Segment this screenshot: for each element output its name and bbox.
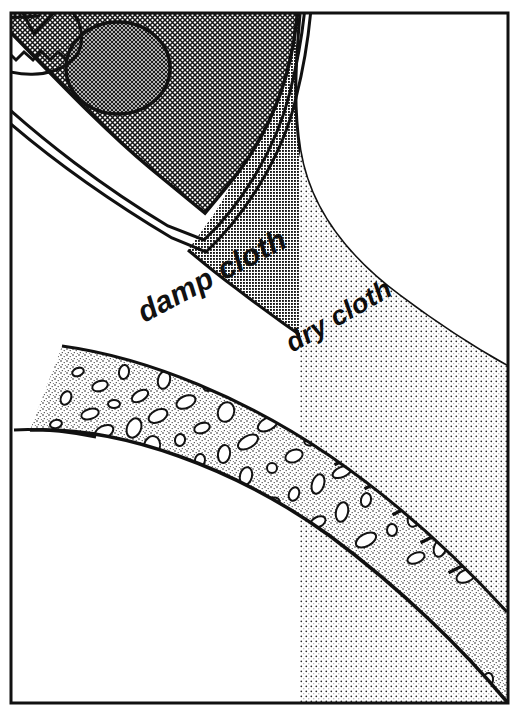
illustration-canvas: damp cloth dry cloth [0,0,531,716]
illustration-artwork [0,0,531,716]
artwork-body [0,0,531,716]
